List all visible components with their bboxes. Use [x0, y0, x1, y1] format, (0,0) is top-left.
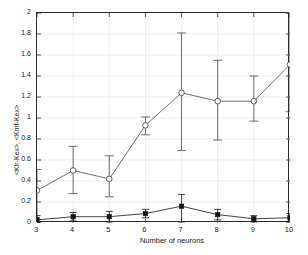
- y-tick-label: 1.6: [3, 50, 31, 58]
- x-tick-label: 8: [209, 225, 225, 234]
- x-tick-label: 7: [173, 225, 189, 234]
- y-tick-label: 1.4: [3, 71, 31, 79]
- y-axis-title: <Klr-Kex>, <Kmf-Kex>: [13, 105, 21, 175]
- plot-area: [36, 12, 289, 222]
- x-axis-title: Number of neurons: [18, 236, 308, 246]
- x-tick-label: 9: [245, 225, 261, 234]
- x-tick-label: 10: [281, 225, 297, 234]
- y-tick-label: 1.2: [3, 92, 31, 100]
- x-tick-label: 6: [136, 225, 152, 234]
- y-tick-label: 0.4: [3, 176, 31, 184]
- x-tick-label: 4: [64, 225, 80, 234]
- y-tick-label: 1.8: [3, 29, 31, 37]
- figure-chart: 00.20.40.60.811.21.41.61.82 345678910 Nu…: [0, 0, 308, 255]
- x-tick-label: 3: [28, 225, 44, 234]
- x-tick-label: 5: [100, 225, 116, 234]
- y-tick-label: 0.2: [3, 197, 31, 205]
- y-tick-label: 0: [3, 218, 31, 226]
- data-layer: [37, 13, 290, 223]
- plot-wrapper: 00.20.40.60.811.21.41.61.82 345678910 Nu…: [0, 0, 308, 255]
- y-tick-label: 2: [3, 8, 31, 16]
